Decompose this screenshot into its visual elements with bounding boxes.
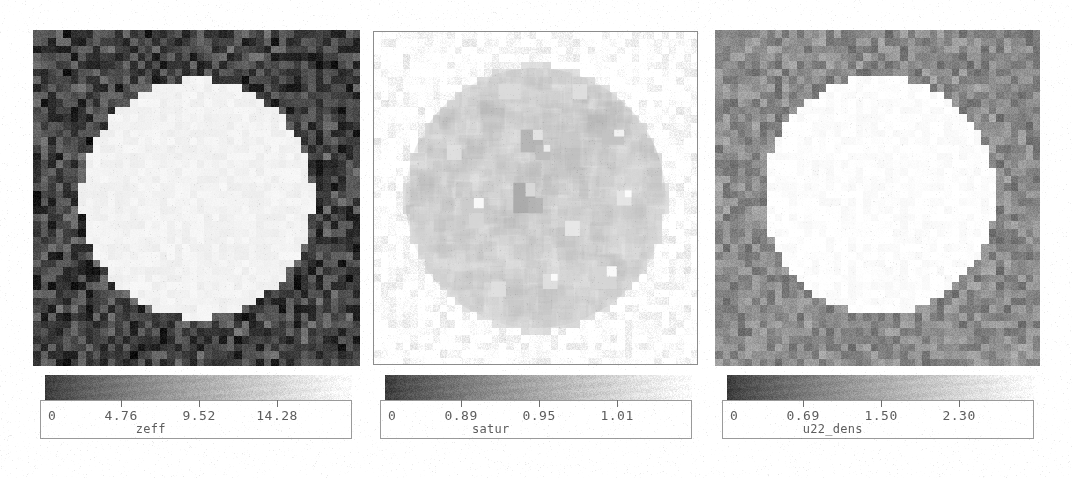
colorbar-tick-label-satur-1: 0.89 bbox=[444, 409, 477, 422]
colorbar-tick-satur-1 bbox=[461, 400, 462, 407]
colorbar-tick-label-u22_dens-0: 0 bbox=[730, 409, 738, 422]
colorbar-label-satur: satur bbox=[472, 423, 510, 435]
colorbar-label-zeff: zeff bbox=[136, 423, 166, 435]
colorbar-tick-label-zeff-0: 0 bbox=[48, 409, 56, 422]
heatmap-u22-dens[interactable] bbox=[715, 30, 1040, 366]
colorbar-tick-u22_dens-1 bbox=[803, 400, 804, 407]
colorbar-gradient-satur bbox=[385, 375, 692, 401]
colorbar-tick-label-satur-3: 1.01 bbox=[600, 409, 633, 422]
colorbar-tick-label-u22_dens-3: 2.30 bbox=[942, 409, 975, 422]
heatmap-zeff[interactable] bbox=[33, 30, 360, 366]
colorbar-tick-label-u22_dens-1: 0.69 bbox=[786, 409, 819, 422]
figure-root: 04.769.5214.28zeff 00.890.951.01satur 00… bbox=[0, 0, 1072, 478]
colorbar-zeff[interactable]: 04.769.5214.28zeff bbox=[40, 375, 352, 439]
colorbar-tick-zeff-3 bbox=[277, 400, 278, 407]
colorbar-tick-label-zeff-3: 14.28 bbox=[256, 409, 298, 422]
colorbar-tick-u22_dens-3 bbox=[959, 400, 960, 407]
colorbar-tick-zeff-1 bbox=[121, 400, 122, 407]
colorbar-tick-label-zeff-2: 9.52 bbox=[182, 409, 215, 422]
colorbar-tick-label-zeff-1: 4.76 bbox=[104, 409, 137, 422]
colorbar-tick-zeff-2 bbox=[199, 400, 200, 407]
colorbar-tick-label-satur-2: 0.95 bbox=[522, 409, 555, 422]
colorbar-tick-satur-3 bbox=[617, 400, 618, 407]
heatmap-satur[interactable] bbox=[373, 31, 698, 365]
colorbar-gradient-zeff bbox=[45, 375, 352, 401]
colorbar-tick-u22_dens-2 bbox=[881, 400, 882, 407]
colorbar-tick-label-satur-0: 0 bbox=[388, 409, 396, 422]
colorbar-gradient-u22-dens bbox=[727, 375, 1034, 401]
colorbar-satur[interactable]: 00.890.951.01satur bbox=[380, 375, 692, 439]
colorbar-u22-dens[interactable]: 00.691.502.30u22_dens bbox=[722, 375, 1034, 439]
colorbar-tick-satur-2 bbox=[539, 400, 540, 407]
colorbar-label-u22_dens: u22_dens bbox=[803, 423, 863, 435]
colorbar-tick-label-u22_dens-2: 1.50 bbox=[864, 409, 897, 422]
